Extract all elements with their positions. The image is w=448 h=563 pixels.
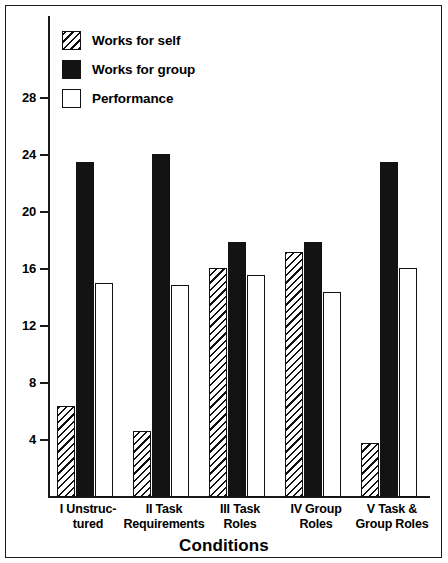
bar-chart-figure: 481216202428 Works for self Works for gr…: [0, 0, 448, 563]
x-axis-title: Conditions: [0, 536, 448, 556]
y-axis-tick-label: 24: [0, 148, 36, 161]
y-axis-tick: [40, 211, 49, 213]
bar-self: [57, 406, 75, 497]
legend-label-works-for-self: Works for self: [92, 33, 180, 48]
bar-group: [76, 162, 94, 497]
bar-group: [304, 242, 322, 497]
bar-self: [361, 443, 379, 497]
bar-self: [285, 252, 303, 497]
legend-swatch-outline-icon: [62, 89, 81, 108]
y-axis-tick: [40, 268, 49, 270]
legend-item-works-for-group: Works for group: [62, 55, 232, 84]
bar-group: [228, 242, 246, 497]
y-axis-tick-label: 8: [0, 376, 36, 389]
bar-self: [133, 431, 151, 497]
y-axis-tick-label: 16: [0, 262, 36, 275]
x-axis-label: V Task &Group Roles: [346, 502, 438, 531]
x-axis-label-line: V Task &: [346, 502, 438, 517]
bar-perf: [323, 292, 341, 497]
legend-label-performance: Performance: [92, 91, 173, 106]
x-axis-label-line: Group Roles: [346, 517, 438, 532]
legend-label-works-for-group: Works for group: [92, 62, 195, 77]
chart-legend: Works for self Works for group Performan…: [62, 26, 232, 113]
legend-item-performance: Performance: [62, 84, 232, 113]
bar-cluster: [354, 16, 430, 497]
y-axis-tick-label: 12: [0, 319, 36, 332]
bar-perf: [399, 268, 417, 497]
bar-perf: [95, 283, 113, 497]
y-axis-tick: [40, 154, 49, 156]
bar-group: [152, 154, 170, 497]
y-axis-tick: [40, 97, 49, 99]
legend-item-works-for-self: Works for self: [62, 26, 232, 55]
legend-swatch-solid-icon: [62, 60, 81, 79]
y-axis-tick-label: 28: [0, 91, 36, 104]
y-axis-tick-label: 4: [0, 433, 36, 446]
bar-self: [209, 268, 227, 497]
bar-group: [380, 162, 398, 497]
y-axis-tick-label: 20: [0, 205, 36, 218]
bar-perf: [171, 285, 189, 497]
bar-perf: [247, 275, 265, 497]
bar-cluster: [278, 16, 354, 497]
y-axis-tick: [40, 439, 49, 441]
legend-swatch-hatched-icon: [62, 31, 81, 50]
y-axis-tick: [40, 382, 49, 384]
y-axis-tick: [40, 325, 49, 327]
